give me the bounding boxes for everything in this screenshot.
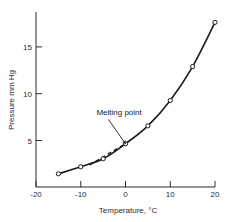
data-curve [58, 22, 215, 173]
y-axis-ticks [36, 47, 42, 141]
x-tick-label-10: 10 [166, 190, 175, 199]
data-point-marker [146, 124, 150, 128]
data-point-markers [56, 20, 217, 176]
y-axis-title: Pressure mm Hg [7, 70, 16, 130]
data-point-marker [56, 172, 60, 176]
data-point-marker [168, 98, 172, 102]
chart-plot-area: 15 10 5 -20 -10 0 10 20 Temperature, °C … [0, 0, 234, 222]
x-axis-ticks [36, 181, 215, 187]
y-tick-label-15: 15 [23, 43, 32, 52]
y-tick-label-5: 5 [28, 137, 33, 146]
x-tick-label-neg20: -20 [30, 190, 42, 199]
data-point-marker [213, 20, 217, 24]
melting-point-arrow [108, 119, 125, 143]
x-tick-label-neg10: -10 [75, 190, 87, 199]
data-point-marker [101, 157, 105, 161]
x-tick-label-0: 0 [123, 190, 128, 199]
x-axis-title: Temperature, °C [99, 206, 158, 215]
melting-point-label: Melting point [96, 108, 142, 117]
y-tick-label-10: 10 [23, 90, 32, 99]
x-tick-label-20: 20 [211, 190, 220, 199]
vapor-pressure-chart: 15 10 5 -20 -10 0 10 20 Temperature, °C … [0, 0, 234, 222]
data-point-marker [79, 165, 83, 169]
data-point-marker [191, 64, 195, 68]
